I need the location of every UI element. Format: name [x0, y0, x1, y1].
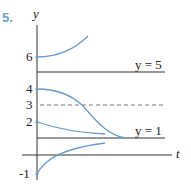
- equilibrium-label-5: y = 5: [135, 57, 162, 72]
- problem-number: 5.: [2, 10, 13, 25]
- tick-6: 6: [26, 49, 33, 64]
- initial-point-4: [35, 87, 38, 90]
- initial-point-neg1: [35, 172, 38, 175]
- curve-start-2: [37, 122, 105, 134]
- initial-point-2: [35, 120, 38, 123]
- y-axis-label: y: [31, 6, 39, 21]
- equilibrium-label-1: y = 1: [135, 123, 162, 138]
- curve-start-6: [37, 36, 88, 57]
- tick-2: 2: [26, 114, 33, 129]
- solution-curves-diagram: 5. y t y = 5 y = 1 6 4 3 2 -1: [0, 0, 191, 196]
- tick-3: 3: [26, 97, 33, 112]
- t-axis-label: t: [176, 146, 180, 161]
- initial-point-6: [35, 55, 38, 58]
- curve-start-neg1: [37, 143, 105, 174]
- tick-4: 4: [26, 81, 33, 96]
- curve-start-4: [37, 89, 125, 138]
- tick-neg1: -1: [19, 166, 30, 181]
